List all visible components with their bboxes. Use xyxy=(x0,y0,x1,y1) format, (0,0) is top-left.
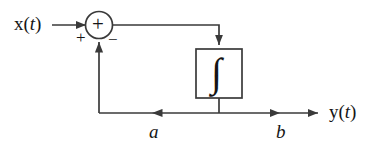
input-label-close-paren: ) xyxy=(35,13,41,34)
integral-icon: ∫ xyxy=(211,53,222,93)
summing-junction-plus-symbol: + xyxy=(92,14,104,35)
summer-to-integrator-wire xyxy=(113,25,220,45)
input-label-variable: x xyxy=(14,13,24,34)
summer-input-minus-sign: − xyxy=(108,31,118,48)
output-label-close-paren: ) xyxy=(350,101,356,122)
block-diagram-figure: + ∫ x(t) y(t) + − a b xyxy=(0,0,373,153)
input-signal-label: x(t) xyxy=(14,14,41,33)
output-label-variable: y xyxy=(329,101,339,122)
output-signal-label: y(t) xyxy=(329,102,356,121)
summer-input-plus-sign: + xyxy=(76,29,86,46)
output-gain-label: b xyxy=(276,122,286,141)
feedback-gain-label: a xyxy=(149,122,159,141)
diagram-canvas xyxy=(0,0,373,153)
